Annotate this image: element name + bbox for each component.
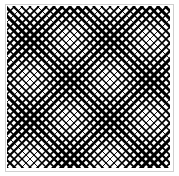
crosshatch-pattern: diagonal crosshatch pattern	[7, 6, 170, 168]
crosshatch-svg	[7, 6, 170, 168]
